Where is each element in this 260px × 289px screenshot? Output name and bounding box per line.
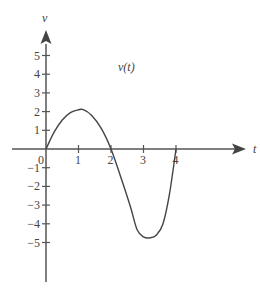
y-axis-arrow-icon bbox=[41, 30, 52, 44]
y-tick-label: −2 bbox=[27, 179, 40, 193]
x-tick-label: 3 bbox=[140, 153, 146, 167]
y-tick-label: 3 bbox=[34, 86, 40, 100]
x-axis-label: t bbox=[253, 142, 257, 156]
curve-label: v(t) bbox=[118, 60, 135, 74]
y-tick-label: −3 bbox=[27, 198, 40, 212]
v-t-curve bbox=[46, 109, 176, 238]
y-axis-label: v bbox=[42, 11, 48, 25]
y-tick-label: −1 bbox=[27, 161, 40, 175]
waveform-diagram: 01234 54321−1−2−3−4−5 v t v(t) bbox=[0, 0, 260, 289]
y-tick-label: −4 bbox=[27, 217, 40, 231]
y-tick-label: −5 bbox=[27, 236, 40, 250]
y-tick-label: 5 bbox=[34, 49, 40, 63]
y-tick-label: 1 bbox=[34, 123, 40, 137]
y-tick-label: 2 bbox=[34, 105, 40, 119]
y-tick-label: 4 bbox=[34, 67, 40, 81]
x-tick-label: 1 bbox=[75, 153, 81, 167]
